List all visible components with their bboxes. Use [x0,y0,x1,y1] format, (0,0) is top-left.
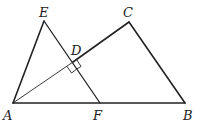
segment-ae [13,21,44,103]
label-f: F [92,108,103,123]
label-e: E [38,5,49,20]
right-angle-marker-2 [77,60,81,69]
segment-ad [13,62,73,103]
label-a: A [2,108,12,123]
label-d: D [70,43,82,58]
label-b: B [182,108,193,123]
label-c: C [123,5,133,20]
geometry-diagram: E C D A F B [0,0,204,129]
segment-ef [44,21,100,103]
segment-bc [129,22,185,103]
